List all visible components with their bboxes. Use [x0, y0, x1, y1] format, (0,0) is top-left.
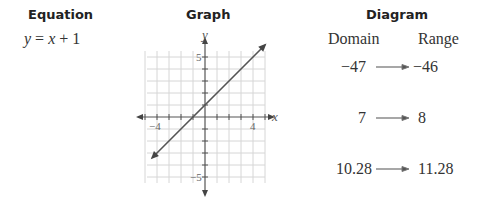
domain-value-2: 7 — [358, 109, 366, 127]
range-label: Range — [418, 30, 459, 48]
x-tick-label-neg: −4 — [149, 120, 161, 132]
range-value-3: 11.28 — [418, 160, 453, 178]
x-axis-label: x — [271, 109, 278, 124]
graph-series — [151, 44, 267, 160]
mapping-arrows — [376, 65, 409, 172]
range-value-2: 8 — [418, 109, 426, 127]
mapping-arrowhead-1 — [402, 65, 409, 70]
mapping-arrowhead-3 — [402, 167, 409, 172]
domain-value-3: 10.28 — [336, 160, 372, 178]
y-tick-label-neg: −5 — [190, 171, 202, 183]
mapping-arrowhead-2 — [402, 116, 409, 121]
y-tick-label-pos: 5 — [196, 51, 202, 63]
x-tick-label-pos: 4 — [250, 120, 256, 132]
x-axis-arrow-left — [136, 114, 143, 120]
domain-value-1: −47 — [341, 58, 366, 76]
range-value-1: −46 — [413, 58, 438, 76]
graph: x y −4 4 5 −5 — [0, 0, 479, 203]
y-axis-label: y — [200, 27, 208, 42]
domain-label: Domain — [328, 30, 380, 48]
y-axis-arrow-down — [202, 190, 208, 197]
